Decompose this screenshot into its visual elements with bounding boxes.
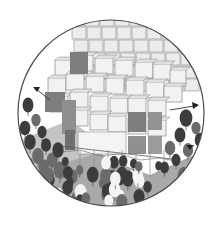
facade-module — [160, 14, 174, 26]
tree-crown — [37, 126, 46, 138]
cube-top — [153, 61, 175, 64]
cube-top — [148, 97, 170, 100]
tree-crown — [110, 171, 121, 185]
cube-top — [86, 73, 108, 76]
tree-crown — [28, 171, 41, 189]
dark-panel — [70, 52, 88, 74]
tree-crown — [116, 194, 127, 209]
tree-crown — [41, 138, 51, 152]
dark-panel — [62, 100, 76, 134]
facade-module — [119, 40, 133, 52]
facade-module — [145, 14, 159, 26]
cube-top — [170, 67, 190, 70]
tree-crown — [160, 161, 169, 173]
dark-panel — [128, 136, 146, 154]
cube-top — [126, 77, 148, 80]
tree-crown — [31, 114, 40, 127]
tree-crown — [171, 154, 180, 166]
tree-crown — [23, 98, 34, 113]
cube-top — [108, 113, 130, 116]
cube-module — [108, 116, 126, 132]
cube-top — [135, 59, 157, 62]
tree-crown — [191, 122, 200, 135]
cube-module — [90, 96, 108, 112]
cube-module — [48, 78, 66, 94]
dark-panel — [128, 112, 146, 132]
facade-module — [87, 27, 101, 39]
facade-module — [74, 40, 88, 52]
facade-module — [85, 14, 99, 26]
facade-module — [185, 79, 199, 91]
cube-top — [128, 95, 150, 98]
dark-panel — [148, 112, 162, 130]
tree-crown — [20, 121, 31, 136]
cube-module — [128, 98, 146, 114]
cube-top — [70, 89, 92, 92]
cube-top — [95, 55, 117, 58]
cube-module — [66, 74, 84, 90]
facade-module — [89, 40, 103, 52]
cube-module — [126, 80, 144, 96]
facade-module — [117, 27, 131, 39]
facade-module — [134, 40, 148, 52]
tree-crown — [165, 141, 176, 155]
facade-module — [175, 14, 189, 26]
facade-module — [72, 27, 86, 39]
cube-top — [90, 111, 112, 114]
illustration-content — [0, 0, 223, 228]
cube-top — [146, 79, 168, 82]
tree-crown — [191, 158, 202, 173]
tree-crown — [62, 196, 70, 207]
tree-crown — [180, 176, 189, 188]
tree-crown — [48, 192, 55, 202]
cube-module — [135, 62, 153, 78]
cube-module — [115, 60, 133, 76]
tree-crown — [175, 128, 186, 143]
tree-crown — [63, 166, 73, 180]
cube-module — [110, 98, 128, 114]
facade-module — [132, 27, 146, 39]
tree-crown — [62, 157, 69, 166]
tree-crown — [22, 157, 34, 173]
tree-crown — [135, 161, 143, 171]
cube-top — [106, 75, 128, 78]
cube-top — [90, 93, 112, 96]
cube-module — [153, 64, 171, 80]
tree-crown — [174, 189, 184, 203]
facade-module — [104, 40, 118, 52]
facade-module — [179, 40, 193, 52]
facade-module — [102, 27, 116, 39]
tree-crown — [52, 142, 63, 157]
tree-crown — [24, 134, 35, 150]
tree-crown — [87, 167, 99, 183]
illustration-vignette — [0, 0, 223, 228]
facade-module — [149, 40, 163, 52]
cube-module — [106, 78, 124, 94]
tree-crown — [180, 109, 193, 126]
tree-crown — [119, 155, 128, 167]
circular-illustration — [0, 0, 223, 228]
tree-crown — [143, 181, 152, 193]
facade-module — [177, 27, 191, 39]
tree-crown — [109, 156, 118, 169]
tree-crown — [57, 165, 64, 175]
cube-module — [90, 114, 108, 130]
cube-top — [115, 57, 137, 60]
cube-module — [95, 58, 113, 74]
tree-crown — [101, 157, 111, 170]
ground-edge — [40, 205, 190, 225]
cube-top — [164, 83, 186, 86]
